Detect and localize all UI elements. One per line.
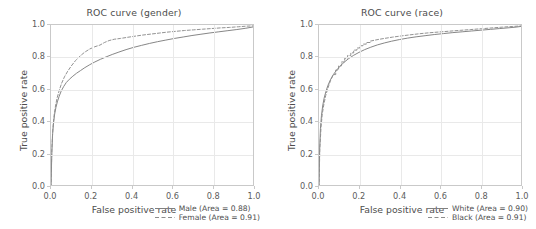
curve-canvas-race: [319, 25, 521, 185]
x-tick-label: 0.6: [420, 191, 460, 201]
gridline-horizontal: [51, 90, 253, 91]
plot-area-gender: [50, 24, 254, 186]
chart-title-race: ROC curve (race): [268, 7, 536, 18]
x-tick-label: 0.2: [71, 191, 111, 201]
x-tick-label: 0.4: [112, 191, 152, 201]
legend-race: White (Area = 0.90) Black (Area = 0.91): [428, 205, 528, 222]
chart-panel-gender: ROC curve (gender) 0.00.20.40.60.81.00.0…: [0, 0, 268, 229]
x-tick-mark: [172, 186, 173, 189]
y-axis-label-gender: True positive rate: [18, 36, 29, 186]
gridline-horizontal: [51, 122, 253, 123]
gridline-vertical: [133, 25, 134, 185]
gridline-horizontal: [319, 57, 521, 58]
chart-title-gender: ROC curve (gender): [0, 7, 268, 18]
x-tick-mark: [213, 186, 214, 189]
gridline-vertical: [92, 25, 93, 185]
gridline-horizontal: [319, 122, 521, 123]
x-tick-label: 0.0: [298, 191, 338, 201]
x-tick-label: 0.8: [461, 191, 501, 201]
roc-curve-white: [319, 26, 521, 185]
gridline-horizontal: [319, 155, 521, 156]
x-tick-mark: [400, 186, 401, 189]
y-tick-label: 1.0: [3, 19, 45, 29]
chart-panel-race: ROC curve (race) 0.00.20.40.60.81.00.00.…: [268, 0, 536, 229]
gridline-vertical: [482, 25, 483, 185]
roc-curve-female: [51, 26, 253, 185]
x-tick-mark: [91, 186, 92, 189]
legend-swatch-dashed-female: [155, 214, 175, 221]
x-tick-mark: [359, 186, 360, 189]
y-tick-mark: [47, 89, 50, 90]
legend-swatch-solid-male: [155, 205, 175, 212]
y-axis-label-race: True positive rate: [286, 36, 297, 186]
roc-curve-black: [319, 26, 521, 185]
x-tick-label: 0.6: [152, 191, 192, 201]
x-tick-label: 0.2: [339, 191, 379, 201]
x-tick-label: 0.0: [30, 191, 70, 201]
roc-curve-male: [51, 27, 253, 185]
legend-swatch-dashed-black: [428, 214, 448, 221]
x-tick-mark: [254, 186, 255, 189]
legend-item-female: Female (Area = 0.91): [155, 214, 260, 221]
legend-item-male: Male (Area = 0.88): [155, 205, 251, 212]
x-tick-mark: [50, 186, 51, 189]
legend-item-white: White (Area = 0.90): [428, 205, 528, 212]
y-tick-mark: [315, 56, 318, 57]
x-tick-mark: [481, 186, 482, 189]
gridline-horizontal: [51, 57, 253, 58]
gridline-horizontal: [51, 155, 253, 156]
y-tick-mark: [47, 56, 50, 57]
legend-label-white: White (Area = 0.90): [452, 205, 528, 212]
y-tick-mark: [315, 89, 318, 90]
legend-swatch-solid-white: [428, 205, 448, 212]
gridline-horizontal: [319, 90, 521, 91]
y-tick-mark: [47, 24, 50, 25]
legend-gender: Male (Area = 0.88) Female (Area = 0.91): [155, 205, 260, 222]
x-tick-label: 0.8: [193, 191, 233, 201]
x-tick-label: 1.0: [502, 191, 536, 201]
y-tick-mark: [47, 154, 50, 155]
legend-label-black: Black (Area = 0.91): [452, 214, 526, 221]
y-tick-label: 1.0: [271, 19, 313, 29]
y-tick-mark: [315, 24, 318, 25]
legend-item-black: Black (Area = 0.91): [428, 214, 526, 221]
x-tick-label: 0.4: [380, 191, 420, 201]
curve-canvas-gender: [51, 25, 253, 185]
x-tick-mark: [440, 186, 441, 189]
gridline-vertical: [214, 25, 215, 185]
gridline-vertical: [401, 25, 402, 185]
plot-area-race: [318, 24, 522, 186]
legend-label-male: Male (Area = 0.88): [179, 205, 251, 212]
gridline-vertical: [360, 25, 361, 185]
gridline-vertical: [441, 25, 442, 185]
x-tick-mark: [132, 186, 133, 189]
y-tick-mark: [47, 121, 50, 122]
gridline-vertical: [173, 25, 174, 185]
x-tick-mark: [522, 186, 523, 189]
y-tick-mark: [315, 154, 318, 155]
x-tick-mark: [318, 186, 319, 189]
roc-curves-figure: ROC curve (gender) 0.00.20.40.60.81.00.0…: [0, 0, 536, 229]
y-tick-mark: [315, 121, 318, 122]
legend-label-female: Female (Area = 0.91): [179, 214, 260, 221]
